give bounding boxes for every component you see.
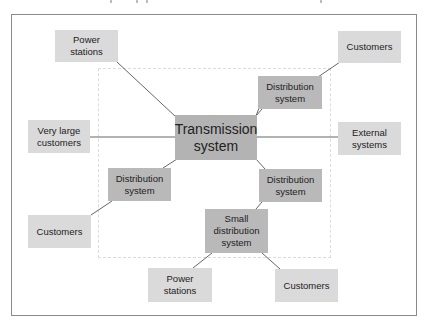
node-label: systems: [352, 139, 387, 150]
node-label: Distribution: [266, 81, 314, 92]
node-label: External: [352, 127, 387, 138]
node-label: system: [275, 93, 305, 104]
node-label: Customers: [284, 280, 330, 292]
node-customers-left: Customers: [28, 215, 91, 248]
node-label: Small: [225, 213, 249, 224]
node-label: system: [124, 185, 154, 196]
node-customers-bottom: Customers: [275, 269, 338, 302]
node-distribution-bottom-right: Distribution system: [259, 169, 322, 202]
node-label: Transmission: [175, 121, 258, 137]
node-label: Power: [167, 273, 194, 284]
node-small-distribution-system: Small distribution system: [205, 209, 268, 253]
node-label: Distribution: [267, 174, 315, 185]
node-label: Power: [73, 34, 100, 45]
node-very-large-customers: Very large customers: [28, 120, 90, 153]
node-external-systems: External systems: [338, 122, 401, 155]
node-power-stations-top: Power stations: [55, 30, 118, 62]
node-label: Very large: [38, 125, 81, 136]
node-label: system: [221, 237, 251, 248]
node-label: stations: [164, 285, 197, 296]
node-distribution-top-right: Distribution system: [258, 76, 322, 109]
node-distribution-left: Distribution system: [108, 168, 171, 201]
node-label: system: [275, 186, 305, 197]
node-customers-top-right: Customers: [338, 31, 401, 63]
node-power-stations-bottom: Power stations: [148, 268, 212, 302]
node-label: Customers: [347, 41, 393, 53]
node-label: system: [194, 138, 238, 154]
node-label: Customers: [37, 226, 83, 238]
node-label: Distribution: [116, 173, 164, 184]
node-label: distribution: [214, 225, 260, 236]
node-transmission-system: Transmission system: [175, 115, 257, 160]
node-label: stations: [70, 46, 103, 57]
node-label: customers: [37, 137, 81, 148]
